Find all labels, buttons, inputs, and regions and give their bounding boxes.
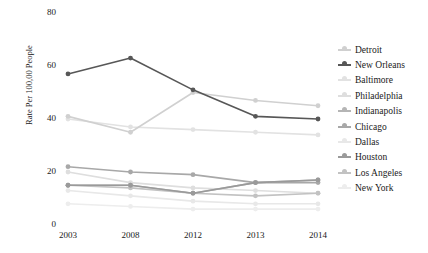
legend-item-new-york[interactable]: New York (338, 181, 428, 196)
data-point (128, 170, 133, 175)
series-baltimore (66, 117, 321, 138)
data-point (191, 186, 196, 191)
data-point (316, 191, 321, 196)
data-point (66, 164, 71, 169)
data-point (191, 191, 196, 196)
data-point (128, 56, 133, 61)
data-point (66, 170, 71, 175)
data-point (128, 204, 133, 209)
legend-marker-icon (338, 136, 351, 149)
legend-marker-icon (338, 105, 351, 118)
data-point (316, 178, 321, 183)
data-point (191, 172, 196, 177)
series-new-orleans (66, 56, 321, 122)
legend-label: Philadelphia (351, 91, 403, 101)
data-point (128, 193, 133, 198)
line-chart: Rate Per 100,00 People 806040200 2003200… (0, 0, 428, 253)
legend-label: Houston (351, 152, 387, 162)
data-point (316, 103, 321, 108)
data-point (316, 117, 321, 122)
legend-item-new-orleans[interactable]: New Orleans (338, 57, 428, 72)
legend-marker-icon (338, 59, 351, 72)
data-point (253, 188, 258, 193)
data-point (191, 87, 196, 92)
legend-item-chicago[interactable]: Chicago (338, 119, 428, 134)
data-point (66, 188, 71, 193)
legend-label: Detroit (351, 45, 382, 55)
legend-marker-icon (338, 120, 351, 133)
data-point (66, 72, 71, 77)
legend-marker-icon (338, 43, 351, 56)
legend-label: Baltimore (351, 75, 393, 85)
chart-legend: DetroitNew OrleansBaltimorePhiladelphiaI… (338, 42, 428, 196)
legend-label: Dallas (351, 137, 379, 147)
data-point (128, 183, 133, 188)
data-point (253, 98, 258, 103)
data-point (253, 201, 258, 206)
data-point (66, 183, 71, 188)
data-point (191, 207, 196, 212)
data-point (253, 180, 258, 185)
data-point (316, 207, 321, 212)
legend-marker-icon (338, 89, 351, 102)
legend-label: Los Angeles (351, 168, 402, 178)
legend-marker-icon (338, 74, 351, 87)
legend-item-detroit[interactable]: Detroit (338, 42, 428, 57)
data-point (66, 114, 71, 119)
data-point (253, 114, 258, 119)
data-point (66, 201, 71, 206)
legend-marker-icon (338, 151, 351, 164)
data-point (253, 193, 258, 198)
legend-item-philadelphia[interactable]: Philadelphia (338, 88, 428, 103)
legend-item-los-angeles[interactable]: Los Angeles (338, 165, 428, 180)
legend-label: New York (351, 183, 394, 193)
legend-item-dallas[interactable]: Dallas (338, 134, 428, 149)
legend-label: Indianapolis (351, 106, 402, 116)
legend-label: Chicago (351, 122, 387, 132)
data-point (253, 207, 258, 212)
data-point (191, 199, 196, 204)
legend-item-houston[interactable]: Houston (338, 150, 428, 165)
legend-label: New Orleans (351, 60, 405, 70)
legend-item-baltimore[interactable]: Baltimore (338, 73, 428, 88)
data-point (128, 125, 133, 130)
legend-marker-icon (338, 166, 351, 179)
legend-marker-icon (338, 182, 351, 195)
data-point (191, 127, 196, 132)
legend-item-indianapolis[interactable]: Indianapolis (338, 104, 428, 119)
data-point (253, 130, 258, 135)
data-point (316, 133, 321, 138)
data-point (128, 130, 133, 135)
data-point (316, 201, 321, 206)
